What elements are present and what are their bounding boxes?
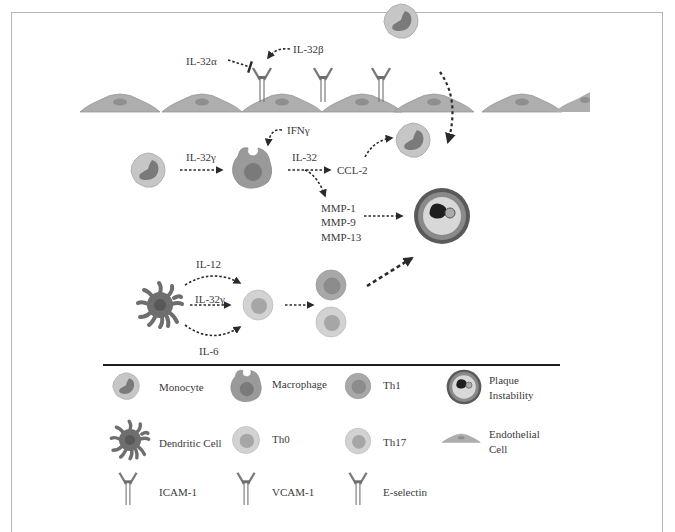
legend-label-e-selectin: E-selectin (383, 485, 427, 500)
macrophage-icon (233, 148, 272, 188)
legend-label-dendritic: Dendritic Cell (159, 436, 222, 451)
monocyte-icon (131, 153, 165, 187)
label-mmp1: MMP-1 (321, 203, 356, 214)
legend-label-icam1: ICAM-1 (159, 485, 197, 500)
legend-label-plaque-line2: Instability (489, 389, 534, 401)
legend-e-selectin-icon (349, 473, 366, 505)
label-ifng: IFNγ (287, 125, 310, 136)
label-il6: IL-6 (199, 346, 219, 357)
il32a-inhibit-arrow (228, 60, 250, 67)
legend-th0-icon (233, 427, 260, 454)
label-il32g-dc: IL-32γ (195, 294, 225, 305)
receptor-vcam1 (314, 68, 332, 102)
ifng-arrow (268, 130, 282, 145)
legend-th1-icon (345, 373, 371, 399)
label-il32: IL-32 (292, 152, 317, 163)
dendritic-cell-icon (138, 283, 182, 327)
plaque-instability-icon (414, 188, 470, 244)
label-il32g-mono: IL-32γ (186, 152, 216, 163)
legend-label-plaque: Plaque Instability (489, 373, 534, 403)
legend-label-endothelial-line2: Cell (489, 443, 507, 455)
il32b-arrow (268, 49, 290, 58)
th0-cell-icon (243, 290, 273, 320)
legend-label-th17: Th17 (383, 435, 406, 450)
legend-macrophage-icon (231, 370, 261, 402)
il6-arrow (185, 325, 240, 336)
legend-label-monocyte: Monocyte (159, 380, 204, 395)
il12-arrow (185, 276, 240, 285)
recruited-monocyte-icon (396, 123, 430, 157)
legend-label-endothelial-line1: Endothelial (489, 428, 540, 440)
legend-endothelial-icon (442, 434, 480, 443)
legend-icam1-icon (119, 473, 136, 505)
legend-label-endothelial: Endothelial Cell (489, 427, 540, 457)
label-il12: IL-12 (196, 259, 221, 270)
ccl2-recruit-arrow (365, 138, 392, 157)
monocyte-adhering-icon (384, 4, 418, 38)
label-mmp9: MMP-9 (321, 217, 356, 228)
legend-label-macrophage: Macrophage (272, 377, 327, 392)
legend-monocyte-icon (113, 373, 140, 400)
legend-label-th0: Th0 (272, 432, 290, 447)
legend-plaque-icon (447, 370, 482, 405)
endothelial-layer (80, 92, 590, 112)
legend-label-plaque-line1: Plaque (489, 374, 519, 386)
label-il32b: IL-32β (293, 44, 324, 55)
legend-dendritic-icon (111, 421, 148, 458)
il32-mmp-arrow (305, 170, 325, 196)
legend-label-vcam1: VCAM-1 (272, 485, 314, 500)
label-mmp13: MMP-13 (321, 232, 361, 243)
legend-label-th1: Th1 (383, 378, 401, 393)
legend-vcam1-icon (237, 473, 254, 505)
label-il32a: IL-32α (186, 56, 217, 67)
th1-cell-icon (316, 270, 346, 300)
th-plaque-arrow (367, 258, 412, 286)
label-ccl2: CCL-2 (337, 165, 368, 176)
th17-cell-icon (316, 307, 346, 337)
legend-th17-icon (345, 428, 371, 454)
